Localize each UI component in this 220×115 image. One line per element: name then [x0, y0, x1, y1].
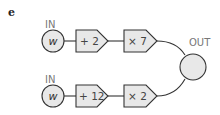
op-label: + 12 — [79, 90, 105, 102]
wire-to-output — [157, 79, 185, 96]
output-node — [180, 54, 206, 80]
op-label: × 2 — [128, 90, 147, 102]
wire-to-output — [157, 41, 185, 55]
op-label: × 7 — [128, 35, 147, 47]
panel-label: e — [8, 6, 15, 19]
input-variable-1: w — [49, 35, 58, 48]
function-machine-diagram: e IN w + 2 × 7 IN w + 12 × 2 OUT — [0, 0, 220, 115]
input-variable-2: w — [49, 90, 58, 103]
output-label: OUT — [189, 37, 211, 48]
input-label-1: IN — [45, 19, 55, 30]
op-label: + 2 — [80, 35, 99, 47]
input-label-2: IN — [45, 74, 55, 85]
